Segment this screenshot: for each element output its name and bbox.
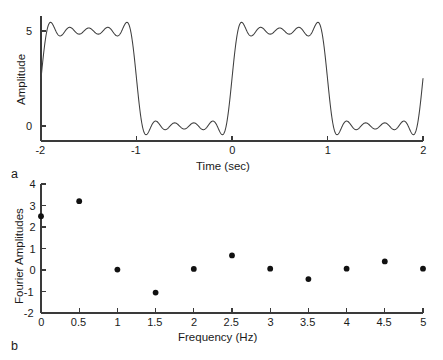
panel-b-y-tick-label: 0 bbox=[29, 265, 35, 276]
panel-a-xtick-label-neg1: -1 bbox=[131, 145, 141, 156]
panel-b-fourier-amplitudes: Frequency (Hz) Fourier Amplitudes -2-101… bbox=[0, 175, 443, 360]
panel-b-y-tick-label: 3 bbox=[29, 201, 35, 212]
panel-b-data-point bbox=[38, 213, 44, 219]
panel-b-data-point bbox=[420, 266, 426, 272]
panel-b-y-tick-label: 4 bbox=[29, 179, 35, 190]
panel-b-data-point bbox=[153, 290, 159, 296]
panel-b-x-tick-label: 1 bbox=[115, 317, 121, 328]
panel-b-x-axis-title: Frequency (Hz) bbox=[178, 332, 257, 344]
panel-b-x-tick-label: 5 bbox=[420, 317, 426, 328]
panel-b-data-point bbox=[229, 252, 235, 258]
panel-b-data-point bbox=[267, 266, 273, 272]
panel-a-xtick-label-1: 1 bbox=[325, 145, 331, 156]
panel-b-data-point bbox=[306, 276, 312, 282]
panel-a-y-axis-title: Amplitude bbox=[16, 54, 28, 105]
panel-a-ytick-label-0: 0 bbox=[26, 121, 32, 132]
panel-b-x-tick-label: 0 bbox=[38, 317, 44, 328]
panel-b-data-point bbox=[76, 198, 82, 204]
panel-label-b: b bbox=[11, 340, 18, 353]
panel-b-x-tick-label: 4.5 bbox=[376, 317, 391, 328]
panel-b-data-point bbox=[191, 266, 197, 272]
panel-b-data-point bbox=[344, 266, 350, 272]
panel-b-y-tick-label: -1 bbox=[24, 287, 34, 298]
panel-a-xtick-label-0: 0 bbox=[229, 145, 235, 156]
panel-b-x-tick-label: 3 bbox=[267, 317, 273, 328]
panel-a-ytick-label-5: 5 bbox=[26, 26, 32, 37]
panel-b-y-tick-label: 2 bbox=[29, 222, 35, 233]
panel-a-x-axis-title: Time (sec) bbox=[196, 161, 250, 173]
panel-a-xtick-label-neg2: -2 bbox=[35, 145, 45, 156]
panel-b-x-tick-label: 2.5 bbox=[224, 317, 239, 328]
panel-b-x-tick-label: 3.5 bbox=[300, 317, 315, 328]
fourier-figure: 5 0 -2 -1 0 1 2 Time (sec) Amplitude a F… bbox=[0, 0, 443, 360]
panel-b-x-tick-label: 4 bbox=[344, 317, 350, 328]
panel-b-x-tick-label: 0.5 bbox=[71, 317, 86, 328]
panel-b-x-tick-label: 2 bbox=[191, 317, 197, 328]
panel-b-data-point bbox=[382, 259, 388, 265]
panel-a-xtick-label-2: 2 bbox=[420, 145, 426, 156]
panel-a-plot-area bbox=[0, 0, 443, 180]
panel-a-waveform: 5 0 -2 -1 0 1 2 Time (sec) Amplitude bbox=[0, 0, 443, 180]
panel-b-x-tick-label: 1.5 bbox=[147, 317, 162, 328]
panel-a-waveform-line bbox=[41, 22, 423, 134]
panel-b-y-tick-label: -2 bbox=[24, 308, 34, 319]
panel-b-y-tick-label: 1 bbox=[29, 244, 35, 255]
panel-b-data-point bbox=[115, 267, 121, 273]
